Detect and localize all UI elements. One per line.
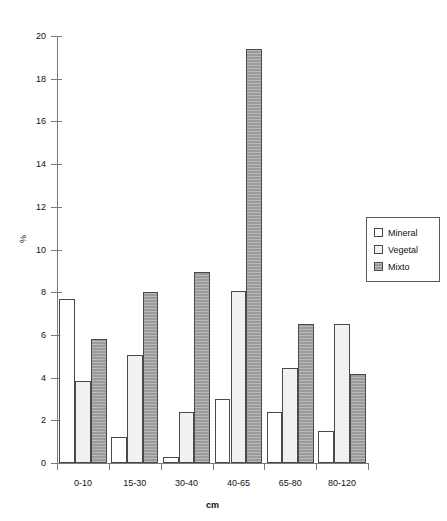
y-axis-tick-label-wrap: 8 — [6, 288, 46, 297]
x-axis-category-label: 80-120 — [316, 478, 368, 488]
y-axis-tick-label-wrap: 16 — [6, 117, 46, 126]
y-axis-tick — [51, 36, 62, 37]
chart-legend: MineralVegetalMixto — [366, 217, 440, 282]
y-axis-tick-label: 2 — [12, 416, 46, 425]
y-axis-tick-label: 8 — [12, 288, 46, 297]
y-axis-tick-label: 12 — [12, 203, 46, 212]
bar-mineral-30-40 — [163, 457, 179, 463]
y-axis-tick-label-wrap: 6 — [6, 331, 46, 340]
y-axis-tick-label: 4 — [12, 374, 46, 383]
bar-vegetal-40-65 — [231, 291, 247, 463]
bar-mixto-65-80 — [298, 324, 314, 463]
y-axis-tick — [51, 207, 62, 208]
x-axis-title: cm — [57, 500, 368, 510]
y-axis-tick-label-wrap: 4 — [6, 374, 46, 383]
y-axis-tick-label-wrap: 10 — [6, 246, 46, 255]
y-axis-tick-label-wrap: 2 — [6, 416, 46, 425]
bar-mixto-15-30 — [143, 292, 159, 463]
legend-item-vegetal[interactable]: Vegetal — [374, 242, 433, 257]
bar-vegetal-15-30 — [127, 355, 143, 463]
x-axis-category-label: 65-80 — [264, 478, 316, 488]
y-axis-tick-label: 18 — [12, 75, 46, 84]
bar-mineral-0-10 — [59, 299, 75, 463]
y-axis-tick-label: 10 — [12, 246, 46, 255]
y-axis-tick — [51, 121, 62, 122]
legend-item-mineral[interactable]: Mineral — [374, 225, 433, 240]
y-axis-tick-label: 14 — [12, 160, 46, 169]
x-axis-tick — [109, 463, 110, 470]
y-axis-tick-label: 16 — [12, 117, 46, 126]
bar-vegetal-80-120 — [334, 324, 350, 463]
x-axis-category-label: 0-10 — [57, 478, 109, 488]
bar-mineral-80-120 — [318, 431, 334, 463]
bar-mineral-40-65 — [215, 399, 231, 463]
x-axis-tick — [368, 463, 369, 470]
x-axis-tick — [213, 463, 214, 470]
y-axis-tick — [51, 164, 62, 165]
y-axis-tick — [51, 79, 62, 80]
x-axis-tick — [264, 463, 265, 470]
bar-vegetal-65-80 — [282, 368, 298, 463]
bar-mixto-0-10 — [91, 339, 107, 463]
y-axis-tick — [51, 292, 62, 293]
bar-mineral-65-80 — [267, 412, 283, 463]
y-axis-tick-label-wrap: 12 — [6, 203, 46, 212]
bar-mixto-40-65 — [246, 49, 262, 463]
legend-item-label: Mixto — [388, 262, 410, 272]
legend-item-mixto[interactable]: Mixto — [374, 259, 433, 274]
y-axis-title: % — [19, 235, 28, 243]
y-axis-tick-label: 20 — [12, 32, 46, 41]
x-axis-category-label: 15-30 — [109, 478, 161, 488]
y-axis-tick-label-wrap: 14 — [6, 160, 46, 169]
legend-swatch-mineral-icon — [374, 228, 383, 237]
y-axis-tick-label: 0 — [12, 459, 46, 468]
x-axis-tick — [316, 463, 317, 470]
legend-item-label: Vegetal — [388, 245, 418, 255]
legend-swatch-mixto-icon — [374, 262, 383, 271]
legend-swatch-vegetal-icon — [374, 245, 383, 254]
bar-mixto-80-120 — [350, 374, 366, 463]
y-axis-tick-label-wrap: 0 — [6, 459, 46, 468]
x-axis-category-label: 40-65 — [213, 478, 265, 488]
x-axis-category-label: 30-40 — [161, 478, 213, 488]
y-axis-tick-label-wrap: 20 — [6, 32, 46, 41]
x-axis-tick — [57, 463, 58, 470]
y-axis-tick — [51, 250, 62, 251]
bar-mineral-15-30 — [111, 437, 127, 463]
bar-mixto-30-40 — [194, 272, 210, 463]
y-axis-tick-label-wrap: 18 — [6, 75, 46, 84]
x-axis-tick — [161, 463, 162, 470]
bar-vegetal-0-10 — [75, 381, 91, 463]
legend-item-label: Mineral — [388, 228, 418, 238]
y-axis-tick-label: 6 — [12, 331, 46, 340]
bar-chart: 02468101214161820 % 0-1015-3030-4040-656… — [0, 0, 447, 521]
bar-vegetal-30-40 — [179, 412, 195, 463]
